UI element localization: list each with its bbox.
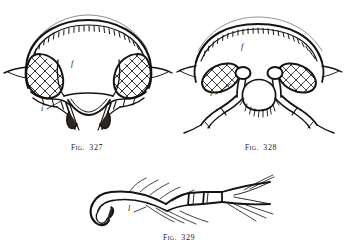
caption-328-smallcaps: IG xyxy=(249,145,256,151)
figure-328: f i xyxy=(174,4,348,134)
caption-fig-329: FIG. 329 xyxy=(84,226,274,244)
figure-329: l xyxy=(84,172,274,228)
figure-327-drawing xyxy=(0,4,174,134)
caption-327-smallcaps: IG xyxy=(75,145,82,151)
figure-327: f i xyxy=(0,4,174,134)
figure-329-drawing xyxy=(84,172,274,228)
caption-329-number: 329 xyxy=(181,233,195,242)
figure-328-drawing xyxy=(174,4,348,134)
label-claw-329: l xyxy=(128,204,130,213)
caption-328-punct: . xyxy=(257,143,259,152)
figure-plate: f i FIG. 327 xyxy=(0,0,348,250)
caption-327-number: 327 xyxy=(89,143,103,152)
caption-329-smallcaps: IG xyxy=(167,235,174,241)
label-insertion-328: i xyxy=(210,89,212,98)
caption-fig-328: FIG. 328 xyxy=(174,136,348,154)
label-frons-328: f xyxy=(241,42,243,51)
label-insertion-327: i xyxy=(41,104,43,113)
caption-fig-327: FIG. 327 xyxy=(0,136,174,154)
caption-329-punct: . xyxy=(175,233,177,242)
caption-328-number: 328 xyxy=(263,143,277,152)
compound-eye-right xyxy=(110,47,176,115)
label-frons-327: f xyxy=(71,59,73,68)
compound-eye-left xyxy=(1,47,67,115)
caption-327-punct: . xyxy=(83,143,85,152)
